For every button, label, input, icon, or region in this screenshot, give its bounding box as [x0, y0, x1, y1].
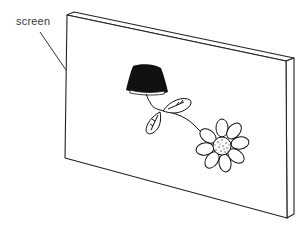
label-leader-line	[40, 32, 66, 70]
screen-board	[65, 12, 294, 218]
screen-label: screen	[16, 15, 50, 27]
screen-illustration	[0, 0, 302, 228]
diagram-canvas: screen	[0, 0, 302, 228]
